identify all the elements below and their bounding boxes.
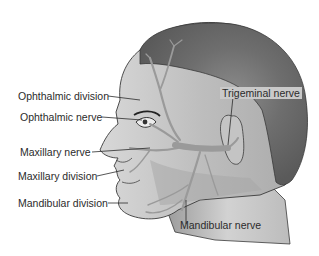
head-illustration	[0, 0, 319, 256]
trigeminal-nerve-diagram: Ophthalmic division Ophthalmic nerve Max…	[0, 0, 319, 256]
label-trigeminal-nerve: Trigeminal nerve	[220, 87, 302, 99]
label-mandibular-division: Mandibular division	[18, 197, 108, 209]
label-maxillary-nerve: Maxillary nerve	[20, 146, 91, 158]
label-mandibular-nerve: Mandibular nerve	[180, 219, 261, 231]
label-maxillary-division: Maxillary division	[18, 170, 97, 182]
label-ophthalmic-division: Ophthalmic division	[18, 90, 109, 102]
label-ophthalmic-nerve: Ophthalmic nerve	[20, 111, 102, 123]
